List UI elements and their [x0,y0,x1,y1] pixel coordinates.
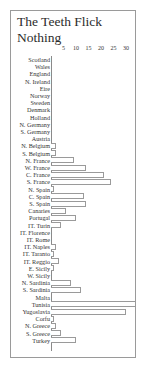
bar-row: W. France [0,164,144,171]
category-label: Holland [30,114,50,121]
category-label: Malta [36,294,50,301]
bar-row: C. Spain [0,193,144,200]
bar [51,179,111,185]
x-tick-label: 30 [123,44,129,52]
bar-row: Norway [0,92,144,99]
bar [51,301,136,307]
bar [51,309,126,315]
category-label: N. Sardinia [22,279,50,286]
category-label: S. Sardinia [23,286,50,293]
category-label: IT. Naples [24,243,50,250]
bar-row: S. France [0,178,144,185]
bar [51,150,56,156]
category-label: N. Ireland [25,78,50,85]
bar-row: N. Sardinia [0,279,144,286]
bar [51,143,56,149]
bar [51,201,86,207]
category-label: IT. Reggio [24,258,50,265]
category-label: C. France [26,171,50,178]
bar [51,323,56,329]
category-label: W. Sicily [27,272,50,279]
bar [51,193,84,199]
bar-row: S. Germany [0,128,144,135]
x-tick-label: 15 [86,44,92,52]
bar-row: IT. Rome [0,236,144,243]
bar-row: S. Belgium [0,150,144,157]
x-tick-label: 20 [98,44,104,52]
category-label: Portugal [29,214,50,221]
category-label: IT. Florence [20,229,50,236]
bar-row: Denmark [0,106,144,113]
category-label: Scotland [28,56,50,63]
category-label: Yugoslavia [23,308,51,315]
bar-row: N. Ireland [0,78,144,85]
x-tick-label: 5 [62,44,65,52]
bar [51,251,54,257]
bar [51,258,59,264]
bar [51,165,86,171]
bar-row: N. Spain [0,186,144,193]
category-label: S. Belgium [22,150,50,157]
chart-title: The Teeth Flick Nothing [17,14,127,46]
bar-row: IT. Reggio [0,258,144,265]
category-label: IT. Taranto [23,250,50,257]
bar-row: England [0,70,144,77]
bar-row: S. Greece [0,330,144,337]
bar-row: Tunisia [0,301,144,308]
bar [51,157,74,163]
bar [51,287,81,293]
bar-row: S. Spain [0,200,144,207]
x-axis-ticks: 51015202530 [0,44,144,54]
category-label: England [29,70,50,77]
category-label: N. Belgium [21,142,50,149]
category-label: N. Spain [28,186,50,193]
x-tick-label: 25 [111,44,117,52]
bar [51,215,76,221]
bar [51,222,61,228]
bar-row: Eire [0,85,144,92]
bar-row: N. Germany [0,121,144,128]
bar [51,316,54,322]
category-label: N. Greece [25,322,50,329]
category-label: IT. Rome [27,236,50,243]
bar-row: Corfu [0,315,144,322]
category-label: N. France [26,157,50,164]
bar-row: N. France [0,157,144,164]
category-label: Austria [32,135,50,142]
bar-row: Austria [0,135,144,142]
category-label: IT. Turin [28,222,50,229]
bar-row: Yugoslavia [0,308,144,315]
bar-row: IT. Taranto [0,250,144,257]
bar-row: Canaries [0,207,144,214]
category-label: S. Greece [26,330,50,337]
bar [51,265,54,271]
bar [51,330,61,336]
bar [51,280,71,286]
bar-row: Wales [0,63,144,70]
category-label: Turkey [32,337,50,344]
category-label: S. Spain [29,200,50,207]
category-label: Corfu [36,315,50,322]
bar-row: Scotland [0,56,144,63]
bar [51,172,104,178]
category-label: Sweden [30,99,50,106]
bar [51,244,56,250]
bar-row: Portugal [0,214,144,221]
category-label: C. Spain [29,193,50,200]
category-label: W. France [25,164,50,171]
bar [51,186,54,192]
bar-row: Holland [0,114,144,121]
category-label: Wales [35,63,50,70]
x-tick-label: 10 [73,44,79,52]
bar-row: C. France [0,171,144,178]
category-label: S. France [27,178,50,185]
bar-row: IT. Florence [0,229,144,236]
bar-row: IT. Turin [0,222,144,229]
category-label: S. Germany [20,128,50,135]
bar-row: S. Sardinia [0,286,144,293]
bar-row: Malta [0,294,144,301]
category-label: E. Sicily [29,265,50,272]
bar [51,337,76,343]
category-label: Tunisia [32,301,50,308]
bar-row: IT. Naples [0,243,144,250]
